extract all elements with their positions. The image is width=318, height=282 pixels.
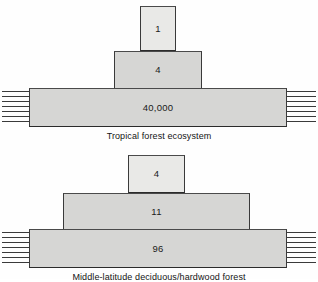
pyramid-level-block-top: 4 bbox=[128, 155, 185, 193]
pyramid-level-block-middle: 4 bbox=[114, 51, 202, 89]
pyramid-level-value: 4 bbox=[154, 169, 159, 179]
pyramid-tropical-forest: 1 4 bbox=[0, 0, 318, 145]
pyramid-level-value: 40,000 bbox=[143, 103, 173, 113]
pyramid-level-value: 11 bbox=[151, 207, 161, 217]
hatch-lines-left-icon bbox=[2, 90, 32, 126]
hatch-lines-right-icon bbox=[286, 231, 316, 267]
hatch-lines-left-icon bbox=[2, 231, 32, 267]
pyramid-midlatitude-forest: 4 11 bbox=[0, 150, 318, 279]
hatch-lines-right-icon bbox=[286, 90, 316, 126]
pyramid-caption: Tropical forest ecosystem bbox=[0, 131, 318, 141]
pyramid-caption: Middle-latitude deciduous/hardwood fores… bbox=[0, 272, 318, 282]
pyramid-level-value: 1 bbox=[155, 24, 160, 34]
pyramid-level-value: 4 bbox=[155, 65, 160, 75]
pyramid-level-block-top: 1 bbox=[140, 6, 176, 51]
pyramid-level-value: 96 bbox=[153, 244, 164, 254]
pyramid-level-block-base: 96 bbox=[29, 229, 287, 268]
pyramid-level-block-middle: 11 bbox=[63, 193, 250, 230]
pyramid-level-block-base: 40,000 bbox=[29, 88, 287, 127]
